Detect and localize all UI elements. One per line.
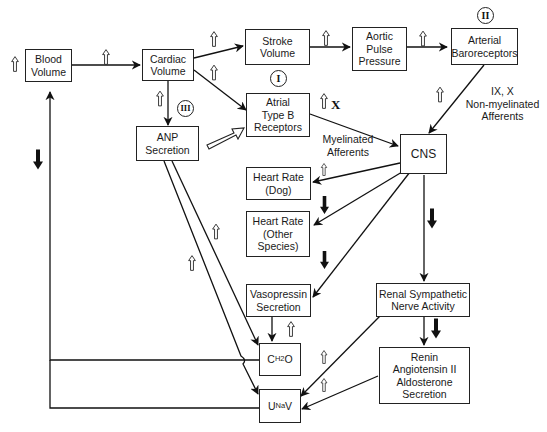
edge-cardiac-to-atrial bbox=[194, 70, 246, 110]
unav-main: U bbox=[268, 400, 276, 413]
marker-roman-iii: III bbox=[177, 100, 194, 117]
edge-renal-to-unav bbox=[301, 316, 380, 396]
up-arrow-icon bbox=[321, 351, 327, 364]
up-arrow-icon bbox=[211, 65, 218, 80]
node-ch2o: CH2 O bbox=[259, 343, 301, 376]
up-arrow-icon bbox=[321, 164, 326, 176]
edge-cns-to-hr-dog bbox=[313, 163, 400, 182]
up-arrow-icon bbox=[157, 91, 164, 106]
node-stroke-volume: Stroke Volume bbox=[245, 29, 310, 65]
node-renin-angiotensin-aldosterone: Renin Angiotensin II Aldosterone Secreti… bbox=[379, 347, 470, 404]
node-anp-secretion: ANP Secretion bbox=[136, 126, 199, 161]
up-arrow-icon bbox=[213, 224, 220, 239]
edge-cardiac-to-stroke bbox=[194, 46, 243, 58]
node-atrial-type-b-receptors: Atrial Type B Receptors bbox=[246, 93, 310, 137]
node-arterial-baroreceptors: Arterial Baroreceptors bbox=[451, 28, 518, 65]
down-arrow-icon bbox=[427, 209, 437, 229]
ch2o-sub: H2 bbox=[275, 353, 285, 366]
node-unav: UNaV bbox=[259, 389, 301, 423]
marker-roman-ii: II bbox=[477, 7, 494, 24]
up-arrow-icon bbox=[323, 31, 330, 46]
node-cns: CNS bbox=[400, 134, 447, 174]
unav-sub: Na bbox=[275, 400, 285, 413]
up-arrow-icon bbox=[189, 256, 196, 271]
down-arrow-icon bbox=[33, 150, 43, 170]
up-arrow-icon bbox=[321, 94, 328, 109]
marker-roman-i: I bbox=[270, 70, 287, 87]
up-arrow-icon bbox=[288, 322, 295, 337]
down-arrow-icon bbox=[431, 319, 441, 339]
up-arrow-icon bbox=[321, 379, 327, 392]
up-arrow-icon bbox=[420, 31, 427, 46]
up-arrow-icon bbox=[12, 57, 19, 72]
label-myelinated-afferents: Myelinated Afferents bbox=[313, 133, 383, 158]
label-x-nerve: X bbox=[331, 97, 340, 113]
anp-to-atrial-open-arrow bbox=[207, 128, 244, 149]
up-arrow-icon bbox=[103, 50, 110, 65]
node-cardiac-volume: Cardiac Volume bbox=[142, 49, 194, 81]
down-arrow-icon bbox=[320, 251, 329, 269]
edge-renin-to-unav bbox=[302, 376, 378, 409]
node-blood-volume: Blood Volume bbox=[25, 49, 72, 82]
node-renal-sympathetic-nerve-activity: Renal Sympathetic Nerve Activity bbox=[376, 283, 470, 317]
node-heart-rate-other-species: Heart Rate (Other Species) bbox=[246, 211, 310, 257]
edge-unav-to-blood bbox=[50, 360, 260, 408]
down-arrow-icon bbox=[320, 196, 329, 214]
node-aortic-pulse-pressure: Aortic Pulse Pressure bbox=[352, 27, 407, 71]
unav-tail: V bbox=[285, 400, 292, 413]
ch2o-tail: O bbox=[285, 353, 293, 366]
node-heart-rate-dog: Heart Rate (Dog) bbox=[246, 167, 311, 200]
label-non-myelinated-afferents: IX, X Non-myelinated Afferents bbox=[460, 85, 545, 123]
ch2o-main: C bbox=[267, 353, 275, 366]
edge-cns-to-vasopressin bbox=[313, 172, 410, 297]
up-arrow-icon bbox=[211, 32, 218, 47]
up-arrow-icon bbox=[437, 87, 444, 102]
edge-anp-to-unav bbox=[164, 161, 258, 394]
node-vasopressin-secretion: Vasopressin Secretion bbox=[246, 284, 311, 317]
